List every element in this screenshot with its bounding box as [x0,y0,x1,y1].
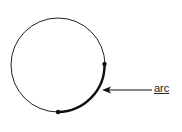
arc-label: arc [154,82,169,94]
arc-endpoint-top [102,62,106,66]
arc-endpoint-bottom [56,110,60,114]
circle-diagram [0,0,182,132]
highlighted-arc [58,64,105,112]
